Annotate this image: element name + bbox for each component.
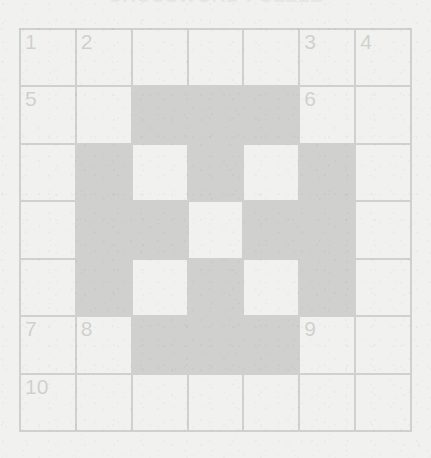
grid-cell[interactable] <box>21 202 77 259</box>
grid-cell-block <box>189 260 245 317</box>
grid-cell[interactable]: 8 <box>77 317 133 374</box>
grid-cell[interactable] <box>356 375 412 432</box>
grid-cell[interactable] <box>244 375 300 432</box>
grid-cell[interactable] <box>244 260 300 317</box>
grid-cell-block <box>77 260 133 317</box>
page-title: CROSSWORD PUZZLE <box>0 0 431 7</box>
grid-cell[interactable] <box>77 375 133 432</box>
clue-number: 7 <box>25 317 37 341</box>
grid-cell-block <box>300 145 356 202</box>
grid-cell[interactable] <box>133 30 189 87</box>
clue-number: 3 <box>304 30 316 54</box>
grid-cell[interactable]: 5 <box>21 87 77 144</box>
grid-cell-block <box>244 202 300 259</box>
grid-cell[interactable] <box>300 375 356 432</box>
grid-cell-block <box>300 202 356 259</box>
grid-cell[interactable] <box>77 87 133 144</box>
grid-cell[interactable] <box>244 145 300 202</box>
grid-cell[interactable] <box>21 145 77 202</box>
grid-cell[interactable] <box>356 260 412 317</box>
grid-cell-block <box>133 317 189 374</box>
grid-cell[interactable] <box>189 375 245 432</box>
scan-speck <box>418 444 420 447</box>
grid-cell[interactable] <box>133 375 189 432</box>
grid-cell-block <box>189 145 245 202</box>
grid-cell[interactable]: 9 <box>300 317 356 374</box>
clue-number: 8 <box>81 317 93 341</box>
grid-cell-block <box>133 202 189 259</box>
grid-cell-block <box>244 87 300 144</box>
grid-cell[interactable] <box>189 30 245 87</box>
grid-cell[interactable] <box>356 87 412 144</box>
grid-cell-block <box>77 202 133 259</box>
grid-cell[interactable] <box>189 202 245 259</box>
grid-cell[interactable] <box>356 202 412 259</box>
clue-number: 1 <box>25 30 37 54</box>
grid-cell[interactable]: 3 <box>300 30 356 87</box>
grid-cell[interactable]: 2 <box>77 30 133 87</box>
clue-number: 5 <box>25 87 37 111</box>
grid-cell[interactable] <box>133 260 189 317</box>
grid-cell[interactable] <box>356 317 412 374</box>
crossword-grid[interactable]: 12345678910 <box>19 28 412 432</box>
grid-cell[interactable]: 7 <box>21 317 77 374</box>
grid-cell[interactable]: 6 <box>300 87 356 144</box>
grid-cell-block <box>300 260 356 317</box>
clue-number: 10 <box>25 375 48 399</box>
clue-number: 9 <box>304 317 316 341</box>
grid-cell-block <box>244 317 300 374</box>
scan-speck <box>311 440 313 442</box>
grid-cell-block <box>189 317 245 374</box>
grid-cell[interactable] <box>356 145 412 202</box>
grid-cell[interactable]: 1 <box>21 30 77 87</box>
grid-cell[interactable] <box>244 30 300 87</box>
grid-cell[interactable]: 10 <box>21 375 77 432</box>
grid-cell[interactable]: 4 <box>356 30 412 87</box>
grid-cell[interactable] <box>133 145 189 202</box>
grid-cell-block <box>133 87 189 144</box>
title-strip: CROSSWORD PUZZLE <box>0 0 431 14</box>
grid-cell-block <box>77 145 133 202</box>
clue-number: 6 <box>304 87 316 111</box>
clue-number: 2 <box>81 30 93 54</box>
grid-cell[interactable] <box>21 260 77 317</box>
clue-number: 4 <box>360 30 372 54</box>
grid-cell-block <box>189 87 245 144</box>
